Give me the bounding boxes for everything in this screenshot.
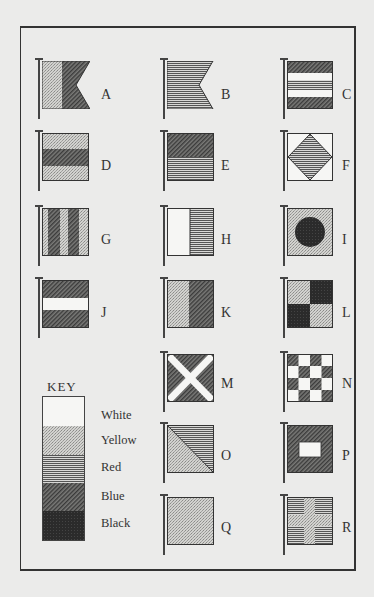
flagpole bbox=[283, 423, 285, 483]
flagpole bbox=[38, 131, 40, 191]
key-label-yellow: Yellow bbox=[101, 433, 137, 448]
flagpole bbox=[163, 59, 165, 119]
flag-j-graphic bbox=[42, 280, 89, 327]
flag-label-n: N bbox=[342, 376, 352, 392]
flagpole bbox=[38, 59, 40, 119]
flag-m-graphic bbox=[167, 354, 214, 401]
flag-label-i: I bbox=[342, 232, 347, 248]
flagpole bbox=[283, 278, 285, 338]
flag-b bbox=[163, 59, 243, 123]
flag-label-j: J bbox=[101, 305, 106, 321]
flag-f-graphic bbox=[287, 133, 334, 180]
flag-label-o: O bbox=[221, 448, 231, 464]
flagpole bbox=[283, 131, 285, 191]
flag-b-graphic bbox=[167, 61, 214, 108]
flag-label-c: C bbox=[342, 87, 351, 103]
flagpole bbox=[283, 59, 285, 119]
flag-l bbox=[283, 278, 363, 342]
flag-label-m: M bbox=[221, 376, 233, 392]
flag-p-graphic bbox=[287, 425, 334, 472]
flagpole bbox=[163, 278, 165, 338]
key-title: KEY bbox=[47, 379, 77, 395]
flag-label-e: E bbox=[221, 158, 230, 174]
flagpole bbox=[163, 423, 165, 483]
flag-l-graphic bbox=[287, 280, 334, 327]
flagpole bbox=[163, 131, 165, 191]
flag-label-b: B bbox=[221, 87, 230, 103]
flag-label-d: D bbox=[101, 158, 111, 174]
flag-h-graphic bbox=[167, 208, 214, 255]
flagpole bbox=[38, 206, 40, 266]
flag-label-l: L bbox=[342, 305, 351, 321]
flag-label-f: F bbox=[342, 158, 350, 174]
flag-i-graphic bbox=[287, 208, 334, 255]
flag-g-graphic bbox=[42, 208, 89, 255]
flag-label-g: G bbox=[101, 232, 111, 248]
flag-f bbox=[283, 131, 363, 195]
flag-label-k: K bbox=[221, 305, 231, 321]
flag-label-r: R bbox=[342, 520, 351, 536]
flag-d-graphic bbox=[42, 133, 89, 180]
flagpole bbox=[163, 495, 165, 555]
flag-e-graphic bbox=[167, 133, 214, 180]
flag-label-q: Q bbox=[221, 520, 231, 536]
flag-a-graphic bbox=[42, 61, 89, 108]
flag-e bbox=[163, 131, 243, 195]
flagpole bbox=[163, 352, 165, 412]
flag-label-h: H bbox=[221, 232, 231, 248]
key-label-black: Black bbox=[101, 516, 130, 531]
flag-label-p: P bbox=[342, 448, 350, 464]
flag-n-graphic bbox=[287, 354, 334, 401]
flag-label-a: A bbox=[101, 87, 111, 103]
flag-i bbox=[283, 206, 363, 270]
flag-p bbox=[283, 423, 363, 487]
flagpole bbox=[283, 352, 285, 412]
key-label-blue: Blue bbox=[101, 489, 125, 504]
flagpole bbox=[283, 206, 285, 266]
flag-q-graphic bbox=[167, 497, 214, 544]
flag-c-graphic bbox=[287, 61, 334, 108]
flag-k-graphic bbox=[167, 280, 214, 327]
flagpole bbox=[283, 495, 285, 555]
key-label-white: White bbox=[101, 408, 132, 423]
key-swatches bbox=[42, 396, 85, 541]
flagpole bbox=[38, 278, 40, 338]
key-label-red: Red bbox=[101, 460, 121, 475]
flagpole bbox=[163, 206, 165, 266]
flag-r-graphic bbox=[287, 497, 334, 544]
flag-o-graphic bbox=[167, 425, 214, 472]
